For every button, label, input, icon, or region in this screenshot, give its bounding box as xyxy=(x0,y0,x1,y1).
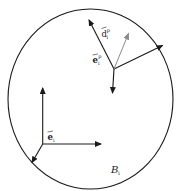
body-label: B i xyxy=(110,164,120,176)
body-label-sub: i xyxy=(118,170,120,176)
point-frame-label: e i p xyxy=(93,53,102,67)
body-frame-diagram: d i p e i p e i B i xyxy=(0,0,178,191)
body-frame-label-sub: i xyxy=(53,137,55,143)
d-vector-label-sub: i xyxy=(107,34,109,40)
body-frame-z-axis-arrow xyxy=(32,144,43,163)
point-frame-label-sub: i xyxy=(98,60,100,66)
body-frame-axes xyxy=(32,88,101,163)
point-frame-right-arrow xyxy=(114,46,163,70)
point-frame-down-arrow xyxy=(113,69,115,93)
d-vector-arrow xyxy=(114,34,129,70)
body-frame-label: e i xyxy=(48,131,56,143)
d-vector-label-sup: p xyxy=(107,27,110,34)
point-frame-label-sup: p xyxy=(98,53,101,60)
d-vector-label: d i p xyxy=(102,27,111,41)
